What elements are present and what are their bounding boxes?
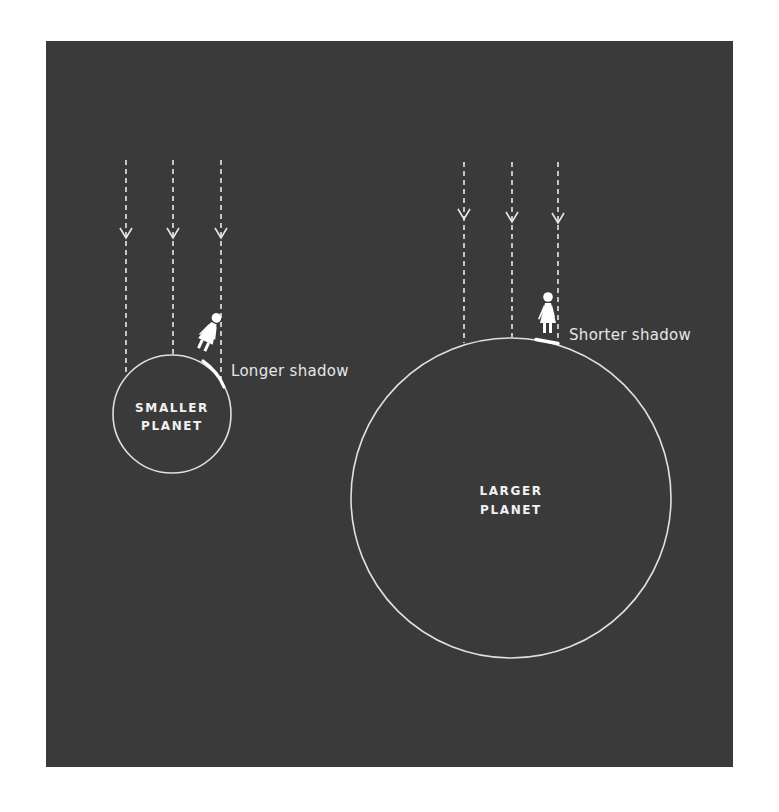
large-planet-group: LARGER PLANET Shorter shadow — [351, 162, 691, 658]
sun-ray-arrow-icon — [120, 160, 132, 372]
sun-ray-arrow-icon — [167, 160, 179, 355]
sun-ray-arrow-icon — [215, 160, 227, 385]
large-planet-label-line2: PLANET — [480, 503, 542, 517]
shorter-shadow-label: Shorter shadow — [569, 326, 691, 344]
long-shadow — [203, 361, 224, 387]
short-shadow — [536, 340, 558, 344]
planet-shadow-diagram: SMALLER PLANET Longer shadow — [0, 0, 779, 812]
sun-ray-arrow-icon — [458, 162, 470, 343]
large-planet-label-line1: LARGER — [479, 484, 542, 498]
small-planet-group: SMALLER PLANET Longer shadow — [113, 160, 349, 473]
small-planet-label-line2: PLANET — [141, 419, 203, 433]
small-planet-label-line1: SMALLER — [135, 401, 209, 415]
sun-ray-arrow-icon — [506, 162, 518, 337]
large-planet-circle — [351, 338, 671, 658]
longer-shadow-label: Longer shadow — [231, 362, 349, 380]
small-planet-sun-rays — [120, 160, 227, 385]
person-icon — [538, 292, 556, 333]
